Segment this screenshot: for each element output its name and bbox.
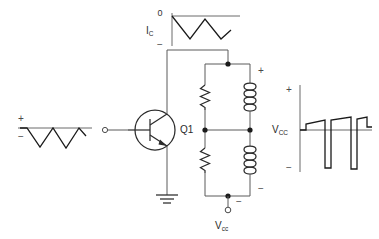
resistor-top-symbol — [201, 85, 210, 110]
supply-terminal-group: − Vcc — [215, 196, 242, 232]
schematic-svg: + − 0 IC − Q1 — [0, 0, 379, 239]
network-minus-mark: − — [258, 183, 264, 194]
ic-waveform-axis-label: IC — [146, 25, 154, 37]
vcc-waveform-minus-label: − — [286, 162, 292, 173]
inductor-top-loop-3 — [244, 97, 256, 104]
ic-waveform-zero-label: 0 — [157, 8, 162, 18]
transistor-collector-lead — [150, 114, 167, 125]
ic-waveform-trace — [172, 16, 231, 39]
input-waveform-group: + − — [18, 113, 92, 148]
inductor-bottom-loop-1 — [244, 146, 256, 153]
transistor-emitter-arrow — [159, 140, 168, 147]
node-dot-middle-right — [247, 127, 252, 132]
input-waveform-trace — [20, 128, 86, 148]
inductor-top-loop-4 — [244, 104, 256, 111]
input-waveform-minus-label: − — [18, 131, 24, 142]
inductor-bottom-loop-4 — [244, 167, 256, 174]
vcc-waveform-plus-label: + — [286, 84, 292, 95]
node-dot-middle-left — [202, 127, 207, 132]
resistor-bottom-symbol — [201, 148, 210, 173]
vcc-waveform-group: + − VCC — [272, 84, 372, 173]
collector-wire-group — [167, 50, 228, 114]
inductor-bottom-loop-3 — [244, 160, 256, 167]
ic-waveform-minus-label: − — [157, 39, 163, 50]
supply-terminal-circle — [225, 207, 231, 213]
vcc-waveform-axis-label: VCC — [272, 124, 288, 136]
transistor-q1-group: Q1 — [128, 110, 194, 150]
network-plus-mark: + — [258, 65, 264, 76]
inductor-bottom-loop-2 — [244, 153, 256, 160]
inductor-top-symbol — [244, 83, 256, 111]
input-waveform-plus-label: + — [18, 113, 24, 124]
rl-network-group: + − — [201, 61, 265, 198]
ic-waveform-group: 0 IC − — [146, 8, 240, 49]
inductor-bottom-symbol — [244, 146, 256, 174]
circuit-diagram-canvas: + − 0 IC − Q1 — [0, 0, 379, 239]
inductor-top-loop-2 — [244, 90, 256, 97]
supply-terminal-label: Vcc — [215, 220, 229, 232]
node-dot-top — [225, 61, 230, 66]
vcc-waveform-trace — [300, 117, 372, 169]
inductor-top-loop-1 — [244, 83, 256, 90]
collector-to-top-node-wire — [167, 50, 228, 114]
input-terminal-circle — [102, 127, 107, 132]
transistor-label-q1: Q1 — [180, 124, 194, 135]
emitter-wire-group — [156, 146, 178, 203]
supply-minus-mark: − — [236, 196, 242, 207]
input-terminal-group — [102, 127, 128, 132]
